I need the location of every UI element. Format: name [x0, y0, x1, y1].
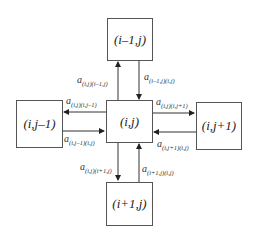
- label-center-to-left: a(i,j)(i,j–1): [66, 95, 97, 108]
- node-center: (i,j): [106, 100, 153, 143]
- node-left: (i,j–1): [16, 100, 63, 148]
- label-center-to-top: a(i,j)(i–1,j): [77, 74, 108, 87]
- label-center-to-bottom: a(i,j)(i+1,j): [80, 161, 112, 174]
- node-top: (i–1,j): [107, 18, 153, 61]
- label-bottom-to-center: a(i+1,j)(i,j): [142, 163, 174, 176]
- label-center-to-right: a(i,j)(i,j+1): [156, 96, 188, 109]
- node-right: (i,j+1): [196, 102, 242, 150]
- label-left-to-center: a(i,j–1)(i,j): [64, 133, 95, 146]
- label-right-to-center: a(i,j+1)(i,j): [157, 138, 189, 151]
- node-bottom: (i+1,j): [106, 182, 153, 226]
- label-top-to-center: a(i–1,j)(i,j): [144, 71, 175, 84]
